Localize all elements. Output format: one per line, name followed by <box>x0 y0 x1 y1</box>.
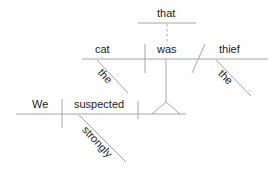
diagram-word-suspected: suspected <box>74 99 124 110</box>
diagram-line-tripod-left-leg <box>152 102 166 114</box>
diagram-word-was: was <box>157 44 177 55</box>
diagram-word-cat: cat <box>95 44 110 55</box>
diagram-word-thief: thief <box>219 44 240 55</box>
diagram-word-We: We <box>32 99 48 110</box>
sentence-diagram: thatcatwasthiefthetheWesuspectedstrongly <box>0 0 275 172</box>
diagram-word-that: that <box>157 8 175 19</box>
diagram-lines-layer <box>0 0 275 172</box>
diagram-line-tripod-right-leg <box>166 102 180 114</box>
